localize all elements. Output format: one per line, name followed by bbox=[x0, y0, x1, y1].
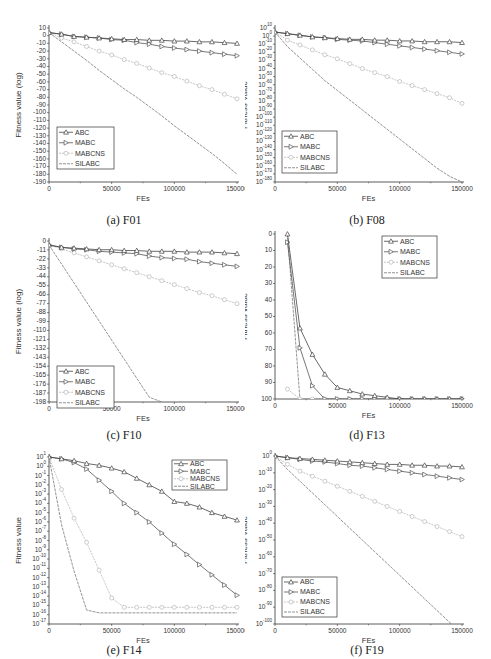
y-tick-label: 80 bbox=[265, 362, 273, 369]
triangle-right-marker-icon bbox=[435, 474, 439, 479]
circle-marker-icon bbox=[72, 516, 76, 520]
circle-marker-icon bbox=[222, 605, 226, 609]
chart-f14: 10110010-110-210-310-410-510-610-710-810… bbox=[0, 443, 245, 648]
legend-label: ABC bbox=[75, 368, 89, 375]
circle-marker-icon bbox=[289, 600, 293, 604]
caption-f08: (b) F08 bbox=[307, 213, 427, 228]
y-tick-label: -165 bbox=[33, 371, 46, 378]
circle-marker-icon bbox=[135, 605, 139, 609]
y-axis-label: Fitness Value bbox=[245, 516, 249, 564]
figure-grid: 100-10-20-30-40-50-60-70-80-90-100-110-1… bbox=[0, 0, 491, 659]
y-tick-label: 90 bbox=[265, 378, 273, 385]
circle-marker-icon bbox=[460, 101, 464, 105]
circle-marker-icon bbox=[348, 489, 352, 493]
triangle-right-marker-icon bbox=[435, 48, 439, 53]
y-tick-label: 10-2 bbox=[35, 479, 47, 488]
y-tick-label: -198 bbox=[33, 398, 46, 405]
legend-label: SILABC bbox=[300, 608, 325, 615]
circle-marker-icon bbox=[289, 155, 293, 159]
circle-marker-icon bbox=[310, 397, 314, 401]
legend: ABCMABCMABCNSSILABC bbox=[172, 460, 227, 490]
chart-f10: 0-11-22-33-44-55-66-77-88-99-110-121-132… bbox=[0, 228, 245, 433]
y-tick-label: -55 bbox=[37, 281, 47, 288]
chart-f01: 100-10-20-30-40-50-60-70-80-90-100-110-1… bbox=[0, 0, 245, 215]
circle-marker-icon bbox=[389, 260, 393, 264]
circle-marker-icon bbox=[435, 525, 439, 529]
y-tick-label: 10-12 bbox=[32, 572, 46, 581]
x-tick-label: 100000 bbox=[163, 405, 185, 412]
triangle-marker-icon bbox=[285, 232, 290, 236]
circle-marker-icon bbox=[423, 88, 427, 92]
y-tick-label: 10-13 bbox=[32, 581, 46, 590]
legend: ABCMABCMABCNSSILABC bbox=[57, 127, 114, 169]
triangle-marker-icon bbox=[210, 510, 215, 514]
legend-label: SILABC bbox=[75, 399, 100, 406]
y-tick-label: -10 bbox=[37, 39, 47, 46]
y-tick-label: 0 bbox=[268, 230, 272, 237]
circle-marker-icon bbox=[172, 605, 176, 609]
y-tick-label: -170 bbox=[33, 162, 46, 169]
axes: 10010-1010-2010-3010-4010-5010-6010-7010… bbox=[245, 450, 473, 645]
series-mabcns bbox=[47, 31, 239, 101]
triangle-marker-icon bbox=[147, 482, 152, 486]
legend-label: SILABC bbox=[190, 483, 215, 490]
y-tick-label: -176 bbox=[33, 380, 46, 387]
x-tick-label: 100000 bbox=[389, 185, 411, 192]
y-tick-label: -70 bbox=[37, 85, 47, 92]
y-tick-label: 100 bbox=[36, 460, 46, 469]
legend-label: SILABC bbox=[75, 160, 100, 167]
y-tick-label: 10-80 bbox=[258, 585, 272, 594]
x-tick-label: 150000 bbox=[451, 185, 473, 192]
triangle-right-marker-icon bbox=[172, 46, 176, 51]
y-tick-label: 10 bbox=[39, 24, 47, 31]
y-tick-label: -110 bbox=[33, 116, 46, 123]
legend-label: MABC bbox=[75, 139, 95, 146]
circle-marker-icon bbox=[147, 275, 151, 279]
legend-label: MABCNS bbox=[75, 389, 105, 396]
y-tick-label: 10-1 bbox=[35, 470, 47, 479]
legend-label: MABC bbox=[75, 378, 95, 385]
circle-marker-icon bbox=[64, 151, 68, 155]
circle-marker-icon bbox=[172, 283, 176, 287]
triangle-right-marker-icon bbox=[460, 52, 464, 57]
circle-marker-icon bbox=[410, 514, 414, 518]
x-tick-label: 0 bbox=[47, 185, 51, 192]
y-axis-label: Fitness value bbox=[245, 292, 249, 340]
circle-marker-icon bbox=[222, 298, 226, 302]
y-tick-label: 10-30 bbox=[258, 501, 272, 510]
series-mabc bbox=[47, 30, 239, 58]
x-tick-label: 0 bbox=[47, 405, 51, 412]
y-tick-label: 10-4 bbox=[35, 498, 47, 507]
legend: ABCMABCMABCNSSILABC bbox=[282, 131, 337, 173]
y-tick-label: 10-60 bbox=[258, 551, 272, 560]
circle-marker-icon bbox=[110, 596, 114, 600]
triangle-right-marker-icon bbox=[235, 53, 239, 58]
caption-f13: (d) F13 bbox=[307, 428, 427, 443]
triangle-right-marker-icon bbox=[235, 593, 239, 598]
circle-marker-icon bbox=[360, 494, 364, 498]
circle-marker-icon bbox=[210, 605, 214, 609]
triangle-right-marker-icon bbox=[147, 254, 151, 259]
circle-marker-icon bbox=[335, 484, 339, 488]
circle-marker-icon bbox=[285, 462, 289, 466]
x-tick-label: 150000 bbox=[451, 402, 473, 409]
y-tick-label: 10-70 bbox=[258, 568, 272, 577]
legend-label: MABC bbox=[300, 588, 320, 595]
triangle-right-marker-icon bbox=[223, 52, 227, 57]
x-tick-label: 100000 bbox=[389, 402, 411, 409]
y-tick-label: -20 bbox=[37, 47, 47, 54]
circle-marker-icon bbox=[222, 92, 226, 96]
triangle-marker-icon bbox=[322, 372, 327, 376]
y-tick-label: 60 bbox=[265, 329, 273, 336]
y-tick-label: -99 bbox=[37, 317, 47, 324]
y-tick-label: -80 bbox=[37, 93, 47, 100]
triangle-right-marker-icon bbox=[410, 45, 414, 50]
circle-marker-icon bbox=[298, 43, 302, 47]
caption-f14: (e) F14 bbox=[64, 643, 184, 658]
y-tick-label: 30 bbox=[265, 279, 273, 286]
triangle-right-marker-icon bbox=[210, 50, 214, 55]
triangle-right-marker-icon bbox=[210, 261, 214, 266]
y-tick-label: -40 bbox=[37, 62, 47, 69]
x-tick-label: 100000 bbox=[163, 185, 185, 192]
circle-marker-icon bbox=[285, 387, 289, 391]
